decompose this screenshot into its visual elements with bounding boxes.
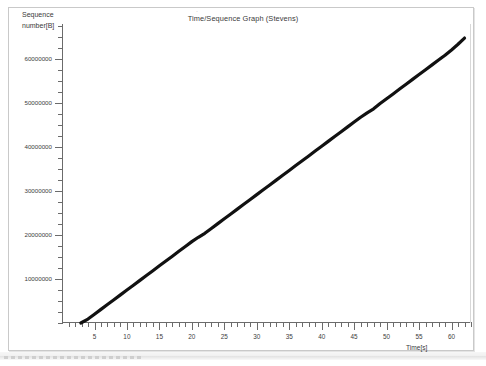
y-tick-label: 20000000 [6, 231, 52, 238]
y-tick-minor [58, 92, 63, 93]
y-tick-minor [58, 114, 63, 115]
x-tick-minor [315, 322, 316, 327]
y-tick-minor [58, 48, 63, 49]
x-tick-minor [146, 322, 147, 327]
x-tick-major [224, 322, 225, 330]
x-tick-minor [211, 322, 212, 327]
y-tick-minor [58, 290, 63, 291]
x-tick-minor [218, 322, 219, 327]
y-tick-label: 40000000 [6, 143, 52, 150]
x-tick-major [387, 322, 388, 330]
y-tick-minor [58, 37, 63, 38]
x-tick-label: 40 [310, 333, 334, 340]
y-tick-major [55, 59, 63, 60]
x-tick-label: 55 [407, 333, 431, 340]
y-tick-minor [58, 312, 63, 313]
y-tick-minor [58, 224, 63, 225]
y-tick-minor [58, 202, 63, 203]
y-tick-minor [58, 70, 63, 71]
graph-window: · Time/Sequence Graph (Stevens) Sequence… [0, 0, 486, 366]
x-tick-minor [179, 322, 180, 327]
x-tick-minor [328, 322, 329, 327]
x-tick-minor [439, 322, 440, 327]
x-tick-minor [406, 322, 407, 327]
x-tick-minor [250, 322, 251, 327]
x-tick-minor [465, 322, 466, 327]
window-top-edge [0, 0, 486, 6]
y-tick-major [55, 235, 63, 236]
x-tick-minor [445, 322, 446, 327]
y-tick-minor [58, 169, 63, 170]
x-tick-minor [82, 322, 83, 327]
x-tick-major [257, 322, 258, 330]
x-tick-label: 10 [115, 333, 139, 340]
x-tick-label: 25 [212, 333, 236, 340]
x-tick-minor [120, 322, 121, 327]
y-tick-minor [58, 323, 63, 324]
x-tick-label: 60 [440, 333, 464, 340]
x-tick-minor [270, 322, 271, 327]
x-tick-major [127, 322, 128, 330]
y-tick-minor [58, 180, 63, 181]
x-tick-major [419, 322, 420, 330]
plot-right-border [470, 24, 471, 323]
y-axis-label: Sequence number[B] [22, 9, 54, 31]
x-tick-minor [296, 322, 297, 327]
x-tick-major [289, 322, 290, 330]
x-tick-minor [393, 322, 394, 327]
x-tick-minor [133, 322, 134, 327]
x-tick-minor [101, 322, 102, 327]
x-tick-label: 30 [245, 333, 269, 340]
window-bottom-edge [0, 352, 486, 360]
x-tick-minor [185, 322, 186, 327]
x-tick-minor [361, 322, 362, 327]
y-tick-label: 30000000 [6, 187, 52, 194]
x-tick-label: 35 [277, 333, 301, 340]
x-tick-major [159, 322, 160, 330]
x-tick-minor [413, 322, 414, 327]
y-tick-label: 50000000 [6, 99, 52, 106]
x-tick-minor [198, 322, 199, 327]
x-tick-minor [244, 322, 245, 327]
y-tick-minor [58, 81, 63, 82]
chart-title: Time/Sequence Graph (Stevens) [0, 14, 486, 23]
x-tick-minor [237, 322, 238, 327]
x-tick-minor [231, 322, 232, 327]
x-axis-line [62, 322, 471, 323]
x-tick-major [354, 322, 355, 330]
x-tick-minor [153, 322, 154, 327]
x-tick-minor [263, 322, 264, 327]
x-tick-major [452, 322, 453, 330]
x-tick-minor [380, 322, 381, 327]
x-tick-label: 45 [342, 333, 366, 340]
x-tick-minor [367, 322, 368, 327]
x-axis-label: Time[s] [406, 344, 427, 351]
x-tick-minor [276, 322, 277, 327]
x-tick-minor [426, 322, 427, 327]
x-tick-minor [458, 322, 459, 327]
x-tick-major [322, 322, 323, 330]
x-tick-minor [88, 322, 89, 327]
x-tick-minor [205, 322, 206, 327]
y-tick-minor [58, 246, 63, 247]
x-tick-minor [341, 322, 342, 327]
x-tick-minor [140, 322, 141, 327]
y-tick-minor [58, 125, 63, 126]
x-tick-minor [69, 322, 70, 327]
y-tick-minor [58, 26, 63, 27]
x-tick-label: 50 [375, 333, 399, 340]
x-tick-minor [348, 322, 349, 327]
chart-panel-frame [8, 7, 474, 351]
x-tick-minor [114, 322, 115, 327]
x-tick-minor [335, 322, 336, 327]
x-tick-label: 15 [147, 333, 171, 340]
x-tick-minor [172, 322, 173, 327]
y-tick-minor [58, 257, 63, 258]
y-axis-label-line2: number[B] [22, 20, 54, 31]
y-tick-major [55, 279, 63, 280]
y-tick-minor [58, 301, 63, 302]
x-tick-label: 5 [83, 333, 107, 340]
y-tick-minor [58, 268, 63, 269]
x-tick-minor [166, 322, 167, 327]
y-tick-major [55, 147, 63, 148]
